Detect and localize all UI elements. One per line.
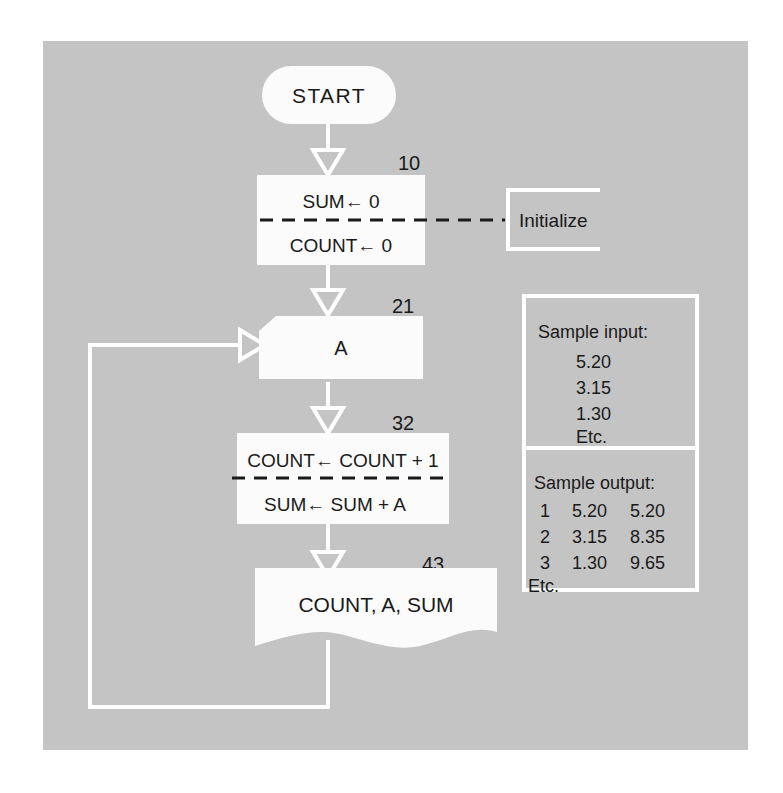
sample-output-row-0-sum: 5.20 bbox=[630, 501, 665, 521]
node-compute-line2: SUM← SUM + A bbox=[264, 494, 406, 515]
sample-output-heading: Sample output: bbox=[534, 473, 655, 493]
sample-output-row-2-count: 3 bbox=[540, 553, 550, 573]
sample-output-row-0-a: 5.20 bbox=[572, 501, 607, 521]
sample-output-row-1-count: 2 bbox=[540, 527, 550, 547]
node-output-label: COUNT, A, SUM bbox=[298, 593, 453, 616]
flowchart-canvas: START 10 SUM← 0 COUNT← 0 Initialize 21 A… bbox=[0, 0, 783, 793]
step-number-10: 10 bbox=[398, 152, 420, 174]
sample-input-heading: Sample input: bbox=[538, 322, 648, 342]
node-initialize-line2: COUNT← 0 bbox=[290, 235, 392, 256]
sample-input-row-2: 1.30 bbox=[576, 404, 611, 424]
annotation-initialize-label: Initialize bbox=[519, 210, 588, 231]
sample-output-row-1-sum: 8.35 bbox=[630, 527, 665, 547]
sample-output-row-0-count: 1 bbox=[540, 501, 550, 521]
sample-input-etc: Etc. bbox=[576, 427, 607, 447]
sample-output-row-2-sum: 9.65 bbox=[630, 553, 665, 573]
node-initialize-line1: SUM← 0 bbox=[302, 191, 379, 212]
sample-input-row-0: 5.20 bbox=[576, 352, 611, 372]
step-number-32: 32 bbox=[392, 412, 414, 434]
node-input-label: A bbox=[334, 337, 348, 359]
sample-output-row-2-a: 1.30 bbox=[572, 553, 607, 573]
sample-output-row-1-a: 3.15 bbox=[572, 527, 607, 547]
node-compute-line1: COUNT← COUNT + 1 bbox=[247, 450, 438, 471]
sample-input-row-1: 3.15 bbox=[576, 378, 611, 398]
sample-output-etc: Etc. bbox=[528, 576, 559, 596]
flowchart-figure: START 10 SUM← 0 COUNT← 0 Initialize 21 A… bbox=[0, 0, 783, 793]
node-start-label: START bbox=[292, 84, 366, 107]
step-number-21: 21 bbox=[392, 295, 414, 317]
